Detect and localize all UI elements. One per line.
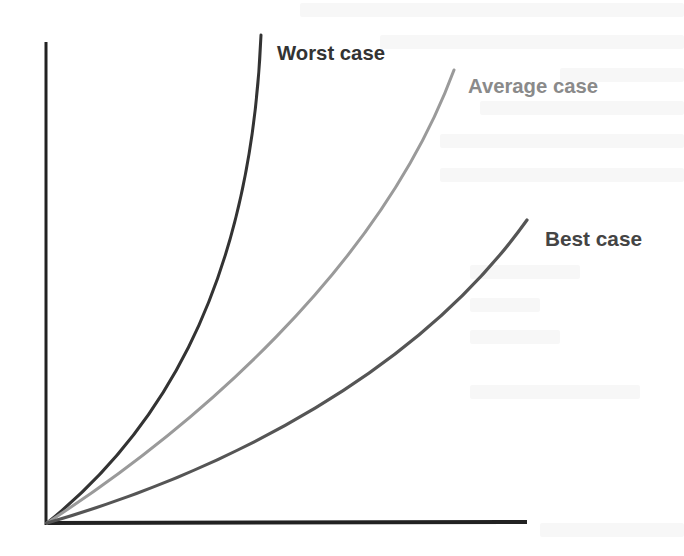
complexity-growth-chart: Worst case Average case Best case [0,0,684,556]
worst-case-curve [47,35,261,523]
best-case-curve [47,220,527,523]
best-case-label: Best case [545,227,642,250]
x-axis [45,522,527,523]
average-case-label: Average case [468,74,598,97]
worst-case-label: Worst case [277,41,385,64]
